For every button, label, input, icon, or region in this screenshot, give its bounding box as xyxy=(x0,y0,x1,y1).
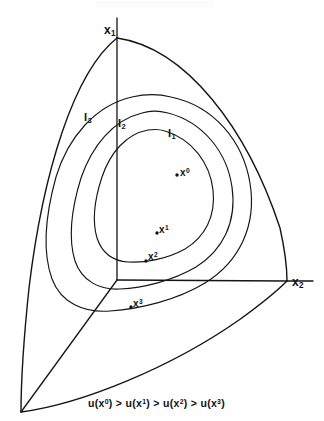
point-label-x3-sup: 3 xyxy=(139,298,143,305)
curve-label-I3-sub: 3 xyxy=(87,116,91,125)
caption-term-0: u(x0) xyxy=(88,397,113,409)
axis-label-x2-sub: 2 xyxy=(299,281,304,290)
caption-term-3: u(x3) xyxy=(200,397,225,409)
axis-label-x2-base: x xyxy=(292,275,299,289)
curve-label-I1: I1 xyxy=(168,128,176,139)
caption-term-1-sup: 1 xyxy=(142,398,146,405)
axis-label-x1-sub: 1 xyxy=(111,29,116,38)
point-label-x0-base: x xyxy=(180,167,186,178)
point-label-x2-base: x xyxy=(148,251,154,262)
curve-label-I2-sub: 2 xyxy=(121,122,125,131)
point-label-x0-sup: 0 xyxy=(186,167,190,174)
indifference-curve-I1 xyxy=(95,129,214,262)
axis-x3-line xyxy=(21,280,117,412)
caption-rel-2: > xyxy=(188,397,201,409)
point-label-x3: x3 xyxy=(133,299,143,309)
caption-term-0-fn: u(x xyxy=(88,397,105,409)
point-label-x0: x0 xyxy=(180,168,190,178)
caption-rel-0: > xyxy=(113,397,126,409)
caption-term-2: u(x2) xyxy=(163,397,188,409)
caption-term-1: u(x1) xyxy=(125,397,150,409)
caption-term-3-sup: 3 xyxy=(217,398,221,405)
curve-label-I2: I2 xyxy=(118,118,126,129)
preference-ordering-caption: u(x0) > u(x1) > u(x2) > u(x3) xyxy=(88,398,225,409)
caption-term-1-fn: u(x xyxy=(125,397,142,409)
caption-term-0-sup: 0 xyxy=(105,398,109,405)
boundary-edge-bottom xyxy=(21,281,287,412)
figure-root: x1 x2 I1 I2 I3 x0 x1 x2 x3 u(x0) > u(x1)… xyxy=(0,0,324,421)
axis-label-x1-base: x xyxy=(104,23,111,37)
diagram-canvas xyxy=(0,0,324,421)
caption-term-2-fn: u(x xyxy=(163,397,180,409)
point-label-x2: x2 xyxy=(148,252,158,262)
axis-x2-line xyxy=(117,280,287,281)
curve-label-I1-sub: 1 xyxy=(171,132,175,141)
axis-label-x2: x2 xyxy=(292,276,304,288)
caption-rel-1: > xyxy=(150,397,163,409)
point-marker-x0 xyxy=(175,173,178,176)
caption-term-2-sup: 2 xyxy=(180,398,184,405)
point-label-x1: x1 xyxy=(159,225,169,235)
curve-label-I3: I3 xyxy=(84,112,92,123)
caption-term-3-close: ) xyxy=(221,397,225,409)
point-label-x3-base: x xyxy=(133,298,139,309)
boundary-edge-top-left xyxy=(21,38,117,412)
point-label-x2-sup: 2 xyxy=(154,251,158,258)
point-label-x1-sup: 1 xyxy=(165,224,169,231)
point-label-x1-base: x xyxy=(159,224,165,235)
caption-term-3-fn: u(x xyxy=(200,397,217,409)
axis-label-x1: x1 xyxy=(104,24,116,36)
indifference-curve-I3 xyxy=(46,95,251,311)
